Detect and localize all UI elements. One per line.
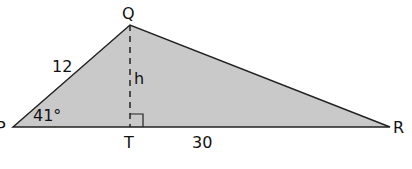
triangle-diagram: Q P R T 12 30 h 41° <box>0 0 412 169</box>
side-tr-length: 30 <box>192 133 212 152</box>
vertex-p-label: P <box>0 118 6 137</box>
vertex-r-label: R <box>393 118 404 137</box>
height-label: h <box>134 69 144 88</box>
angle-p-label: 41° <box>33 106 61 125</box>
triangle-pqr <box>13 25 390 127</box>
vertex-q-label: Q <box>122 4 135 23</box>
side-pq-length: 12 <box>52 57 72 76</box>
vertex-t-label: T <box>123 133 134 152</box>
